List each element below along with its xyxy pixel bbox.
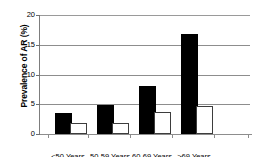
y-tick-label-5: 5 bbox=[5, 101, 35, 109]
y-tickmark-20 bbox=[36, 15, 40, 16]
bar-chart: Prevalence of AR (%) 20 15 10 5 0 bbox=[0, 0, 262, 157]
y-tick-label-0: 0 bbox=[5, 130, 35, 138]
x-axis-label-0: <50 Years bbox=[51, 152, 85, 157]
x-tickmark-2 bbox=[130, 134, 131, 138]
y-tickmark-0 bbox=[36, 134, 40, 135]
x-axis-label-1: 50-59 Years bbox=[90, 152, 130, 157]
x-tickmark-5 bbox=[248, 134, 249, 138]
gridline-20 bbox=[40, 15, 250, 16]
y-tick-label-20: 20 bbox=[5, 11, 35, 19]
x-tickmark-3 bbox=[172, 134, 173, 138]
x-axis-line bbox=[39, 134, 252, 135]
bar-open-3 bbox=[196, 106, 213, 134]
bar-open-1 bbox=[112, 123, 129, 134]
x-axis-label-2: 60-69 Years bbox=[132, 152, 172, 157]
plot-area: 20 15 10 5 0 <5 bbox=[40, 15, 250, 134]
x-tickmark-4 bbox=[214, 134, 215, 138]
bar-open-2 bbox=[154, 112, 171, 134]
y-tick-label-10: 10 bbox=[5, 71, 35, 79]
x-tickmark-1 bbox=[88, 134, 89, 138]
x-tickmark-0 bbox=[48, 134, 49, 138]
gridline-10 bbox=[40, 75, 250, 76]
gridline-15 bbox=[40, 45, 250, 46]
y-tickmark-10 bbox=[36, 75, 40, 76]
y-tickmark-15 bbox=[36, 45, 40, 46]
y-tick-label-15: 15 bbox=[5, 41, 35, 49]
y-tickmark-5 bbox=[36, 104, 40, 105]
x-axis-label-3: >69 Years bbox=[177, 152, 211, 157]
bar-open-0 bbox=[70, 123, 87, 134]
